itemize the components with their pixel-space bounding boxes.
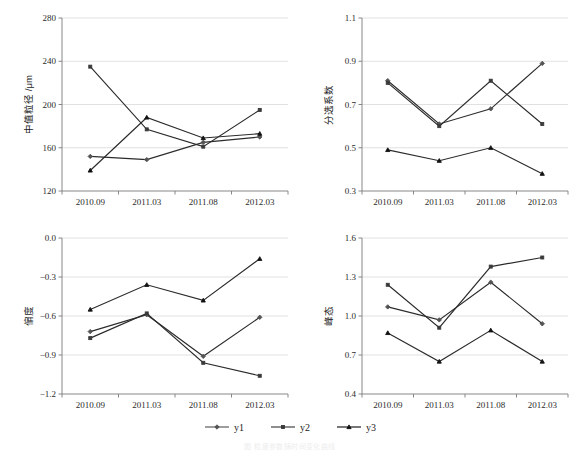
data-point-y2 [541,256,544,259]
y-tick-label: 0.9 [345,56,357,66]
data-point-y2 [438,326,441,329]
legend-marker-triangle-icon [336,421,362,433]
data-point-y3 [258,257,262,261]
data-point-y2 [89,65,92,68]
series-line-y1 [388,282,543,324]
x-tick-label: 2011.03 [132,197,161,207]
chart-kurtosis: 0.40.71.01.31.62010.092011.032011.082012… [300,226,580,422]
chart-median-grain-size: 1201602002402802010.092011.032011.082012… [0,4,300,219]
chart-skewness: −1.2−0.9−0.6−0.30.02010.092011.032011.08… [0,226,300,422]
data-point-y3 [386,148,390,152]
x-tick-label: 2011.08 [189,197,218,207]
data-point-y1 [88,329,92,333]
data-point-y1 [145,157,149,161]
x-tick-label: 2012.03 [245,400,275,410]
data-point-y2 [541,122,544,125]
y-tick-label: 280 [43,13,57,23]
legend-entry-y3[interactable]: y3 [336,421,376,433]
y-tick-label: −0.6 [40,311,57,321]
series-line-y2 [388,258,543,328]
y-axis-title: 峰态 [323,306,334,326]
figure-caption: 图 粒度参数随时间变化曲线 [0,441,580,451]
y-tick-label: 1.3 [345,272,357,282]
x-tick-label: 2010.09 [373,400,403,410]
data-point-y1 [386,305,390,309]
data-point-y3 [258,132,262,136]
legend-label: y1 [234,422,244,433]
series-line-y3 [90,117,260,170]
series-line-y3 [90,259,260,310]
series-line-y2 [90,67,260,147]
x-tick-label: 2012.03 [528,400,558,410]
plot-area-skewness: −1.2−0.9−0.6−0.30.02010.092011.032011.08… [0,226,300,422]
x-tick-label: 2012.03 [528,197,558,207]
series-line-y1 [90,315,260,357]
x-tick-label: 2011.03 [132,400,161,410]
data-point-y2 [145,128,148,131]
legend: y1y2y3 [0,418,580,436]
data-point-y1 [201,140,205,144]
x-tick-label: 2012.03 [245,197,275,207]
data-point-y2 [202,361,205,364]
plot-area-sorting-coefficient: 0.30.50.70.91.12010.092011.032011.082012… [300,4,580,219]
data-point-y2 [489,79,492,82]
y-tick-label: 160 [43,143,57,153]
y-axis-title: 偏度 [23,306,34,326]
series-line-y2 [388,81,543,126]
legend-label: y2 [300,422,310,433]
plot-area-kurtosis: 0.40.71.01.31.62010.092011.032011.082012… [300,226,580,422]
legend-entry-y2[interactable]: y2 [270,421,310,433]
data-point-y2 [386,81,389,84]
y-tick-label: 1.6 [345,233,357,243]
chart-sorting-coefficient: 0.30.50.70.91.12010.092011.032011.082012… [300,4,580,219]
legend-marker-diamond-icon [204,421,230,433]
data-point-y2 [258,374,261,377]
x-tick-label: 2011.08 [476,400,505,410]
data-point-y2 [258,108,261,111]
y-axis-title: 中值粒径 /μm [23,75,34,134]
data-point-y2 [489,265,492,268]
x-tick-label: 2011.03 [425,400,454,410]
data-point-y2 [202,145,205,148]
plot-area-median-grain-size: 1201602002402802010.092011.032011.082012… [0,4,300,219]
y-tick-label: 200 [43,100,57,110]
y-tick-label: −1.2 [40,389,56,399]
y-tick-label: −0.9 [40,350,57,360]
data-point-y3 [145,283,149,287]
y-tick-label: 1.1 [345,13,356,23]
y-tick-label: 0.4 [345,389,357,399]
legend-entry-y1[interactable]: y1 [204,421,244,433]
y-tick-label: 0.0 [45,233,57,243]
data-point-y3 [201,136,205,140]
data-point-y3 [386,331,390,335]
data-point-y2 [438,125,441,128]
y-tick-label: 0.5 [345,143,357,153]
y-axis-title: 分选系数 [323,85,334,125]
x-tick-label: 2011.03 [425,197,454,207]
legend-label: y3 [366,422,376,433]
data-point-y3 [145,115,149,119]
data-point-y3 [489,146,493,150]
data-point-y3 [437,159,441,163]
y-tick-label: −0.3 [40,272,57,282]
figure-panel-grid: 1201602002402802010.092011.032011.082012… [0,0,580,457]
data-point-y3 [88,307,92,311]
y-tick-label: 0.7 [345,100,357,110]
series-line-y3 [388,148,543,174]
data-point-y3 [489,328,493,332]
data-point-y2 [89,337,92,340]
legend-marker-square-icon [270,421,296,433]
y-tick-label: 120 [43,186,57,196]
series-line-y2 [90,313,260,375]
y-tick-label: 0.7 [345,350,357,360]
series-line-y3 [388,330,543,361]
data-point-y3 [540,172,544,176]
series-line-y1 [388,63,543,124]
data-point-y2 [386,283,389,286]
series-line-y1 [90,137,260,160]
x-tick-label: 2010.09 [76,197,106,207]
x-tick-label: 2010.09 [373,197,403,207]
x-tick-label: 2011.08 [476,197,505,207]
x-tick-label: 2010.09 [76,400,106,410]
y-tick-label: 240 [43,56,57,66]
